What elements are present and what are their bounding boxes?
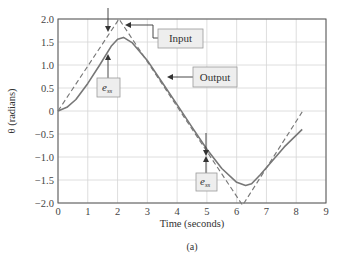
x-tick-label: 5 — [204, 206, 209, 217]
y-tick-label: 1.5 — [41, 37, 54, 48]
output-label-box: Output — [193, 67, 237, 87]
y-axis-label: θ (radians) — [6, 88, 18, 133]
y-tick-label: −1.5 — [35, 175, 54, 186]
x-tick-label: 7 — [264, 206, 269, 217]
y-tick-label: −2.0 — [35, 198, 54, 209]
x-tick-label: 1 — [85, 206, 90, 217]
input-label: Input — [169, 32, 192, 44]
x-tick-label: 4 — [174, 206, 180, 217]
x-tick-label: 9 — [323, 206, 328, 217]
x-tick-label: 8 — [294, 206, 299, 217]
y-tick-label: 1.0 — [41, 60, 54, 71]
ess-label-sub: ss — [205, 181, 211, 189]
figure-caption: (a) — [186, 241, 197, 253]
x-tick-label: 0 — [55, 206, 60, 217]
x-axis-label: Time (seconds) — [160, 218, 225, 230]
y-tick-label: −1.0 — [35, 152, 54, 163]
y-tick-label: 2.0 — [41, 14, 54, 25]
chart: 01234567892.01.51.00.50−0.5−1.0−1.5−2.0 — [0, 0, 344, 266]
x-tick-label: 6 — [234, 206, 239, 217]
output-line — [58, 37, 302, 185]
ess-label-sub: ss — [107, 87, 113, 95]
input-label-box: Input — [158, 29, 203, 48]
y-tick-label: 0 — [49, 106, 54, 117]
x-tick-label: 3 — [145, 206, 150, 217]
ess-label-box-lower: ess — [196, 173, 217, 191]
ess-label-box-upper: ess — [97, 78, 120, 97]
x-tick-label: 2 — [115, 206, 120, 217]
y-tick-label: 0.5 — [41, 83, 54, 94]
y-tick-label: −0.5 — [35, 129, 54, 140]
output-label: Output — [200, 71, 231, 83]
annotations: Input Output ess ess — [97, 8, 237, 191]
